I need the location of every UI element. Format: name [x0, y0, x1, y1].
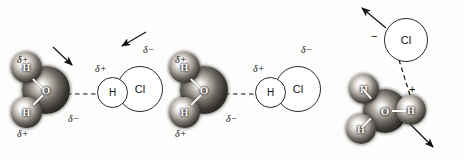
water-delta-minus: δ−	[226, 113, 237, 124]
hydrogen-label: H	[23, 62, 31, 73]
hcl-delta-plus: δ+	[95, 63, 106, 74]
hcl-delta-minus: δ−	[301, 44, 312, 55]
hydrogen-label: H	[181, 107, 189, 118]
chlorine-label: Cl	[401, 34, 411, 46]
panel-ion-separation: Cl − O H H H +	[330, 0, 464, 160]
hydrogen-label: H	[181, 62, 189, 73]
water-hydrogen-lower-sphere: H	[11, 97, 42, 128]
hydrogen-label: H	[109, 87, 116, 98]
hydrogen-label: H	[23, 107, 31, 118]
water-delta-plus-bottom: δ+	[17, 128, 28, 139]
chloride-circle: Cl	[384, 18, 428, 62]
hcl-hydrogen-circle: H	[255, 77, 286, 108]
chlorine-label: Cl	[135, 83, 145, 95]
hcl-delta-minus: δ−	[143, 44, 154, 55]
arrow-hydronium-away	[408, 122, 433, 147]
chlorine-label: Cl	[293, 83, 303, 95]
water-delta-minus: δ−	[68, 113, 79, 124]
water-hydrogen-lower-sphere: H	[169, 97, 200, 128]
figure-canvas: O H H Cl H δ+ δ+ δ− δ+ δ− O H	[0, 0, 464, 160]
hydrogen-label: H	[267, 87, 274, 98]
hcl-hydrogen-circle: H	[97, 77, 128, 108]
chloride-charge-minus: −	[371, 30, 377, 42]
panel-approach: O H H Cl H δ+ δ+ δ− δ+ δ−	[0, 0, 158, 160]
oh-bond-right	[392, 110, 406, 112]
arrow-chloride-away	[362, 8, 386, 28]
arrow-water-inward	[53, 47, 72, 65]
oxygen-label: O	[381, 105, 390, 117]
panel-hydrogen-bonded-complex: O H H Cl H δ+ δ+ δ− δ+ δ−	[158, 0, 330, 160]
water-delta-plus-bottom: δ+	[175, 128, 186, 139]
hydronium-charge-plus: +	[409, 83, 415, 95]
hcl-delta-plus: δ+	[253, 63, 264, 74]
hydrogen-label: H	[407, 105, 415, 116]
